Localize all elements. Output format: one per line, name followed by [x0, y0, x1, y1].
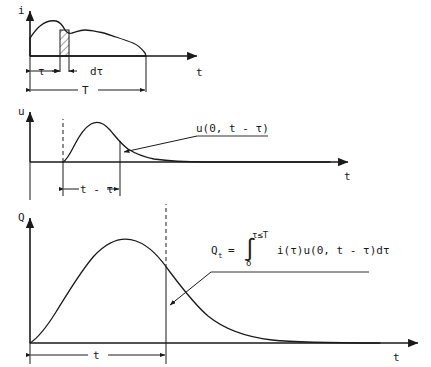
equation-lhs-subscript: t	[218, 251, 223, 260]
dim-dtau-label: dτ	[90, 65, 103, 78]
panel-charge-x-label: t	[393, 351, 400, 364]
panel-total-charge: Q t Q t = ∫ τ≤T o i(τ)u(0, t - τ)dτ t	[18, 204, 418, 364]
panel-charge-equation-leader	[170, 272, 211, 305]
panel-current: i t τ dτ T	[18, 4, 203, 97]
panel-current-x-label: t	[196, 66, 203, 79]
equation-equals: =	[228, 244, 235, 257]
panel-current-curve	[30, 21, 146, 56]
panel-unit-y-label: u	[18, 105, 25, 118]
panel-unit-annotation-label: u(0, t - τ)	[196, 122, 269, 135]
panel-current-y-label: i	[18, 4, 25, 17]
panel-unit-response: u t u(0, t - τ) t - τ	[18, 105, 351, 200]
dim-tau-label: τ	[38, 65, 45, 78]
equation-integrand: i(τ)u(0, t - τ)dτ	[277, 244, 390, 257]
dim-T-label: T	[82, 84, 89, 97]
panel-charge-y-label: Q	[18, 211, 25, 224]
charge-equation: Q t = ∫ τ≤T o i(τ)u(0, t - τ)dτ	[211, 230, 390, 268]
equation-lower-limit: o	[246, 258, 251, 268]
dim-t-minus-tau-label: t - τ	[80, 183, 113, 196]
panel-unit-annotation-leader	[124, 136, 197, 152]
equation-upper-limit: τ≤T	[252, 230, 269, 240]
dtau-hatched-strip	[60, 30, 69, 56]
dim-t-label: t	[93, 349, 100, 362]
equation-lhs-symbol: Q	[211, 244, 218, 257]
convolution-diagram: i t τ dτ T u t	[0, 0, 431, 367]
panel-unit-x-label: t	[344, 170, 351, 183]
